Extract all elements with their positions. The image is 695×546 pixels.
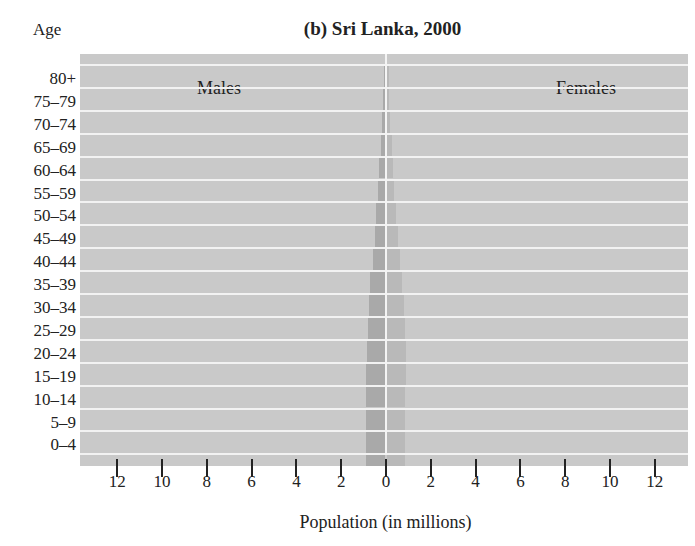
plot-area: Males Females <box>80 54 688 466</box>
female-bar <box>387 89 389 110</box>
female-bar <box>387 112 390 133</box>
female-bar <box>387 203 396 224</box>
age-label: 55–59 <box>34 184 77 204</box>
x-tick-label: 10 <box>590 472 630 492</box>
age-label: 0–4 <box>51 435 77 455</box>
x-tick-label: 8 <box>187 472 227 492</box>
x-tick-label: 0 <box>366 472 406 492</box>
age-label: 15–19 <box>34 367 77 387</box>
age-label: 65–69 <box>34 138 77 158</box>
age-label: 45–49 <box>34 229 77 249</box>
male-bar <box>378 181 385 202</box>
male-bar <box>367 341 385 362</box>
female-bar <box>387 272 402 293</box>
female-bar <box>387 158 393 179</box>
female-bar <box>387 66 389 87</box>
bar-extension <box>387 455 405 466</box>
x-tick-label: 4 <box>276 472 316 492</box>
x-tick-label: 10 <box>142 472 182 492</box>
age-label: 75–79 <box>34 92 77 112</box>
x-tick-label: 12 <box>97 472 137 492</box>
female-bar <box>387 135 392 156</box>
female-bar <box>387 295 404 316</box>
age-label: 35–39 <box>34 275 77 295</box>
age-label: 30–34 <box>34 298 77 318</box>
female-bar <box>387 181 394 202</box>
male-bar <box>366 364 385 385</box>
male-bar <box>376 203 385 224</box>
male-bar <box>368 318 385 339</box>
female-bar <box>387 341 406 362</box>
age-label: 10–14 <box>34 390 77 410</box>
male-bar <box>366 432 385 453</box>
x-tick-label: 6 <box>500 472 540 492</box>
x-tick-label: 8 <box>545 472 585 492</box>
age-label: 5–9 <box>51 413 77 433</box>
age-label: 60–64 <box>34 161 77 181</box>
x-tick-label: 4 <box>456 472 496 492</box>
female-bar <box>387 410 405 431</box>
age-label: 50–54 <box>34 206 77 226</box>
bar-extension <box>366 455 385 466</box>
female-bar <box>387 432 405 453</box>
male-bar <box>375 226 385 247</box>
center-axis-line <box>385 54 387 455</box>
female-bar <box>387 249 400 270</box>
age-label: 80+ <box>49 69 76 89</box>
male-bar <box>370 272 385 293</box>
female-bar <box>387 387 405 408</box>
female-bar <box>387 318 405 339</box>
female-bar <box>387 364 406 385</box>
x-tick-label: 12 <box>635 472 675 492</box>
male-bar <box>373 249 385 270</box>
chart-title: (b) Sri Lanka, 2000 <box>0 18 695 40</box>
x-axis-label: Population (in millions) <box>0 512 695 533</box>
x-tick-label: 2 <box>321 472 361 492</box>
x-tick-label: 2 <box>411 472 451 492</box>
male-bar <box>369 295 385 316</box>
age-label: 25–29 <box>34 321 77 341</box>
age-label: 40–44 <box>34 252 77 272</box>
female-bar <box>387 226 398 247</box>
age-label: 70–74 <box>34 115 77 135</box>
male-bar <box>366 387 385 408</box>
age-label: 20–24 <box>34 344 77 364</box>
male-bar <box>366 410 385 431</box>
x-tick-label: 6 <box>232 472 272 492</box>
